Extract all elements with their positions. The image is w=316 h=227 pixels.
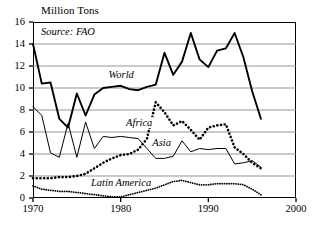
y-tick-label: 2 xyxy=(3,170,25,181)
y-tick-label: 16 xyxy=(3,16,25,27)
series-label-latin-america: Latin America xyxy=(90,177,152,188)
chart-title: Million Tons xyxy=(41,4,99,16)
x-tick-label: 1990 xyxy=(188,203,228,214)
y-tick-label: 8 xyxy=(3,104,25,115)
y-tick-label: 0 xyxy=(3,192,25,203)
x-tick-label: 1980 xyxy=(101,203,141,214)
series-label-africa: Africa xyxy=(125,117,153,128)
chart-root: Million Tons Source: FAO 1614121086420 1… xyxy=(0,0,316,227)
y-tick-label: 6 xyxy=(3,126,25,137)
series-label-world: World xyxy=(108,69,135,80)
x-tick-label: 2000 xyxy=(276,203,316,214)
y-tick-label: 4 xyxy=(3,148,25,159)
y-tick-label: 12 xyxy=(3,60,25,71)
plot-area xyxy=(33,22,296,198)
y-tick-label: 10 xyxy=(3,82,25,93)
y-tick-label: 14 xyxy=(3,38,25,49)
x-tick-label: 1970 xyxy=(13,203,53,214)
series-label-asia: Asia xyxy=(151,137,172,148)
source-note: Source: FAO xyxy=(41,26,95,37)
